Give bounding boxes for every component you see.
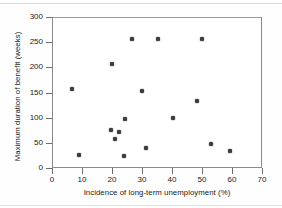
y-tick-label: 300	[0, 13, 43, 21]
data-point	[171, 116, 175, 120]
x-tick-mark	[52, 168, 53, 174]
scatter-plot-figure: Maximum duration of benefit (weeks) Inci…	[0, 0, 282, 208]
data-point	[140, 89, 144, 93]
data-point	[144, 146, 148, 150]
data-point	[109, 128, 113, 132]
data-point	[113, 137, 117, 141]
x-axis-label: Incidence of long-term unemployment (%)	[52, 188, 262, 197]
data-point	[122, 154, 126, 158]
x-tick-label: 50	[190, 176, 214, 184]
data-point	[200, 37, 204, 41]
data-point	[228, 149, 232, 153]
x-tick-label: 20	[100, 176, 124, 184]
data-point	[156, 37, 160, 41]
plot-area	[52, 17, 262, 168]
x-tick-mark	[262, 168, 263, 174]
y-tick-label: 100	[0, 114, 43, 122]
x-tick-label: 60	[220, 176, 244, 184]
data-point	[110, 62, 114, 66]
x-tick-mark	[202, 168, 203, 174]
y-tick-label: 0	[0, 164, 43, 172]
x-tick-mark	[172, 168, 173, 174]
y-tick-label: 200	[0, 63, 43, 71]
data-point	[195, 99, 199, 103]
x-tick-label: 10	[70, 176, 94, 184]
scan-edge-top	[0, 3, 282, 4]
y-tick-label: 150	[0, 89, 43, 97]
data-point	[130, 37, 134, 41]
y-tick-label: 50	[0, 139, 43, 147]
x-tick-mark	[232, 168, 233, 174]
data-point	[209, 142, 213, 146]
x-tick-mark	[142, 168, 143, 174]
x-tick-label: 40	[160, 176, 184, 184]
x-tick-label: 0	[40, 176, 64, 184]
data-point	[77, 153, 81, 157]
x-tick-mark	[82, 168, 83, 174]
scan-edge-bottom	[0, 205, 282, 206]
data-point	[117, 130, 121, 134]
x-tick-label: 70	[250, 176, 274, 184]
data-point	[70, 87, 74, 91]
x-tick-mark	[112, 168, 113, 174]
x-tick-label: 30	[130, 176, 154, 184]
y-tick-label: 250	[0, 38, 43, 46]
data-point	[123, 117, 127, 121]
